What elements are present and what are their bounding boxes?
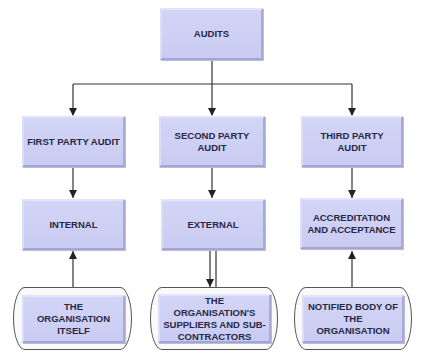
node-second-party-audit: SECOND PARTY AUDIT: [159, 116, 265, 167]
node-label: FIRST PARTY AUDIT: [27, 136, 120, 148]
node-internal: INTERNAL: [22, 199, 125, 250]
node-external: EXTERNAL: [161, 199, 265, 250]
node-first-party-audit: FIRST PARTY AUDIT: [22, 116, 125, 167]
node-audits: AUDITS: [160, 8, 263, 60]
node-label: THE ORGANISATION ITSELF: [27, 301, 120, 337]
node-notified-body: NOTIFIED BODY OF THE ORGANISATION: [302, 295, 404, 343]
node-label: THIRD PARTY AUDIT: [306, 130, 398, 154]
node-organisation-itself: THE ORGANISATION ITSELF: [22, 295, 125, 343]
node-label: INTERNAL: [49, 219, 97, 231]
node-accreditation-and-acceptance: ACCREDITATION AND ACCEPTANCE: [300, 198, 403, 249]
node-label: ACCREDITATION AND ACCEPTANCE: [304, 212, 399, 236]
node-label: SECOND PARTY AUDIT: [164, 130, 260, 154]
node-third-party-audit: THIRD PARTY AUDIT: [301, 116, 403, 167]
node-label: NOTIFIED BODY OF THE ORGANISATION: [307, 301, 399, 337]
audit-types-diagram: AUDITS FIRST PARTY AUDIT SECOND PARTY AU…: [0, 0, 424, 364]
node-suppliers-and-subcontractors: THE ORGANISATION'S SUPPLIERS AND SUB-CON…: [158, 294, 271, 343]
node-label: EXTERNAL: [187, 219, 238, 231]
node-label: THE ORGANISATION'S SUPPLIERS AND SUB-CON…: [163, 295, 266, 343]
node-label: AUDITS: [194, 28, 229, 40]
